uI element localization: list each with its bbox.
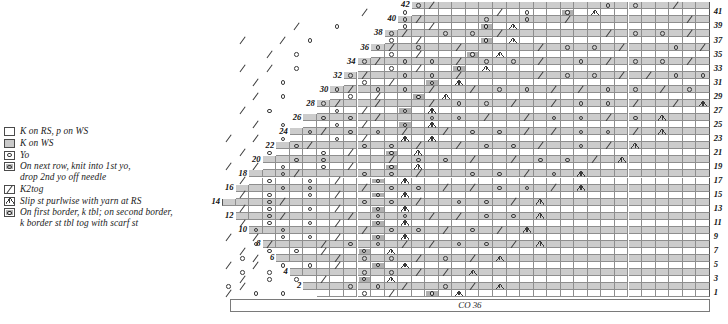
k-tbl-symbol	[452, 65, 466, 72]
chart-cell	[412, 206, 426, 213]
chart-cell	[669, 290, 683, 297]
row-number-right: 39	[714, 22, 728, 29]
yo-symbol	[330, 23, 344, 30]
chart-cell	[371, 276, 385, 283]
chart-cell	[601, 262, 615, 269]
k2tog-icon	[4, 185, 15, 194]
k2tog-symbol	[236, 192, 250, 199]
yo-symbol	[561, 72, 575, 79]
chart-cell-empty	[330, 16, 344, 23]
chart-cell	[683, 241, 697, 248]
chart-cell	[669, 86, 683, 93]
yo-symbol	[330, 107, 344, 114]
chart-cell	[358, 192, 372, 199]
chart-cell-empty	[263, 79, 277, 86]
chart-cell-empty	[276, 72, 290, 79]
k2tog-symbol	[412, 16, 426, 23]
chart-cell	[547, 135, 561, 142]
row-number-right: 25	[714, 121, 728, 128]
slip-stitch-symbol	[574, 170, 588, 177]
chart-cell	[452, 149, 466, 156]
chart-cell	[385, 283, 399, 290]
chart-cell	[385, 241, 399, 248]
chart-cell	[303, 149, 317, 156]
chart-cell	[425, 276, 439, 283]
row-number-right: 27	[714, 107, 728, 114]
chart-cell	[696, 220, 710, 227]
chart-cell	[466, 16, 480, 23]
yo-symbol	[236, 269, 250, 276]
k2tog-symbol	[398, 128, 412, 135]
chart-cell-empty	[222, 192, 236, 199]
chart-cell-empty	[222, 44, 236, 51]
yo-symbol	[412, 227, 426, 234]
chart-cell	[317, 255, 331, 262]
chart-cell	[330, 163, 344, 170]
chart-cell	[601, 185, 615, 192]
yo-symbol	[439, 156, 453, 163]
chart-cell	[466, 220, 480, 227]
chart-cell	[574, 16, 588, 23]
yo-symbol	[574, 58, 588, 65]
yo-symbol	[601, 128, 615, 135]
chart-cell	[574, 121, 588, 128]
chart-cell	[276, 206, 290, 213]
chart-cell	[656, 255, 670, 262]
chart-cell	[425, 234, 439, 241]
chart-cell	[588, 213, 602, 220]
chart-cell	[412, 178, 426, 185]
chart-cell	[439, 107, 453, 114]
chart-cell-empty	[263, 283, 277, 290]
chart-cell	[669, 135, 683, 142]
chart-cell	[452, 93, 466, 100]
chart-cell	[656, 248, 670, 255]
chart-cell	[642, 192, 656, 199]
chart-cell	[466, 2, 480, 9]
chart-cell	[520, 121, 534, 128]
k2tog-symbol	[330, 234, 344, 241]
chart-cell	[412, 276, 426, 283]
chart-cell	[439, 206, 453, 213]
chart-cell-empty	[263, 290, 277, 297]
chart-cell	[385, 135, 399, 142]
chart-cell	[452, 121, 466, 128]
yo-symbol	[371, 213, 385, 220]
chart-cell-empty	[236, 51, 250, 58]
chart-cell-empty	[330, 44, 344, 51]
chart-cell	[493, 234, 507, 241]
chart-cell	[520, 65, 534, 72]
yo-symbol	[358, 142, 372, 149]
chart-cell	[439, 37, 453, 44]
chart-cell	[615, 121, 629, 128]
k-tbl-border-icon	[4, 208, 15, 217]
chart-cell-empty	[344, 9, 358, 16]
chart-cell	[656, 107, 670, 114]
chart-cell-empty	[276, 2, 290, 9]
row-number-right: 21	[714, 149, 728, 156]
chart-cell	[439, 276, 453, 283]
chart-cell	[547, 72, 561, 79]
chart-cell	[534, 107, 548, 114]
row-number-left: 26	[281, 114, 301, 121]
yo-symbol	[358, 199, 372, 206]
chart-cell	[452, 283, 466, 290]
chart-cell	[493, 2, 507, 9]
chart-cell	[629, 178, 643, 185]
yo-symbol	[629, 58, 643, 65]
chart-cell	[466, 248, 480, 255]
chart-cell	[696, 30, 710, 37]
chart-cell	[344, 234, 358, 241]
yo-symbol	[290, 156, 304, 163]
chart-cell	[629, 269, 643, 276]
legend-item: On next row, knit into 1st yo, drop 2nd …	[4, 161, 194, 182]
chart-cell	[493, 114, 507, 121]
chart-cell	[493, 142, 507, 149]
chart-cell	[507, 44, 521, 51]
chart-cell	[479, 86, 493, 93]
k2tog-symbol	[507, 100, 521, 107]
chart-cell	[290, 178, 304, 185]
chart-cell	[493, 93, 507, 100]
row-number-left: 10	[227, 226, 247, 233]
chart-cell	[466, 72, 480, 79]
chart-cell	[547, 9, 561, 16]
